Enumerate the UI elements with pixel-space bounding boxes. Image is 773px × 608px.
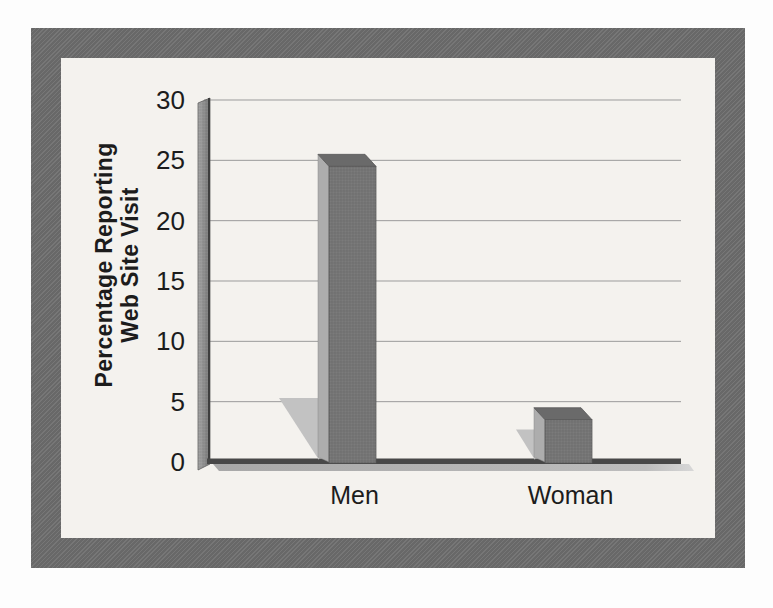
y-tick-label: 10 xyxy=(115,328,185,354)
chart-panel: Percentage Reporting Web Site Visit 0510… xyxy=(61,58,715,538)
bar-men xyxy=(279,154,376,463)
bar-side-face xyxy=(318,154,329,462)
y-tick-label: 30 xyxy=(115,87,185,113)
plot-wall-group xyxy=(198,98,210,470)
y-tick-label: 0 xyxy=(115,449,185,475)
y-tick-label: 25 xyxy=(115,147,185,173)
baseline-shadow xyxy=(213,464,694,471)
bar-ground-shadow xyxy=(279,398,322,460)
bars-group xyxy=(279,154,592,463)
y-axis-title: Percentage Reporting Web Site Visit xyxy=(91,95,145,435)
y-axis-title-line1: Percentage Reporting xyxy=(91,95,117,435)
figure-frame: Percentage Reporting Web Site Visit 0510… xyxy=(31,28,745,568)
bar-front-texture xyxy=(329,166,376,463)
x-category-label: Men xyxy=(330,482,379,508)
bar-woman xyxy=(516,408,592,463)
x-category-label: Woman xyxy=(528,482,614,508)
y-tick-label: 20 xyxy=(115,208,185,234)
gridlines-group xyxy=(204,100,681,402)
baseline-group xyxy=(207,459,694,472)
y-tick-label: 5 xyxy=(115,389,185,415)
y-tick-label: 15 xyxy=(115,268,185,294)
x-axis-baseline xyxy=(207,459,681,465)
y-axis-title-line2: Web Site Visit xyxy=(117,95,143,435)
bar-front-texture xyxy=(545,420,592,463)
page: { "figure": { "page_color": "#fdfdfd", "… xyxy=(0,0,773,608)
